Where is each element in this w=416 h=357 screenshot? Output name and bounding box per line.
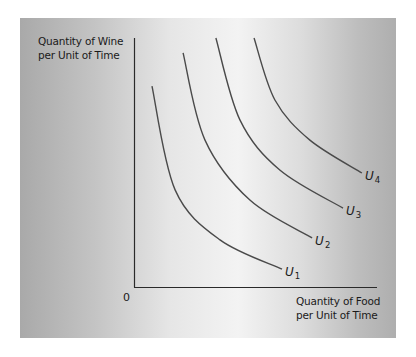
- curve-label-subscript: 2: [325, 240, 330, 250]
- indifference-curve-u3: [216, 38, 343, 208]
- y-axis-label-line-1: Quantity of Wine: [38, 35, 123, 47]
- indifference-curve-u1: [152, 86, 282, 269]
- indifference-curve-chart: Quantity of Wine per Unit of Time Quanti…: [0, 0, 416, 357]
- x-axis-label-line-1: Quantity of Food: [296, 295, 380, 307]
- indifference-curve-u2: [183, 53, 312, 238]
- curve-label-u3: U3: [346, 204, 361, 220]
- x-axis-label-line-2: per Unit of Time: [296, 309, 377, 321]
- y-axis-label-line-2: per Unit of Time: [38, 49, 119, 61]
- curve-label-subscript: 4: [375, 175, 380, 185]
- curve-label-u2: U2: [315, 234, 330, 250]
- curve-label-subscript: 3: [356, 210, 361, 220]
- origin-label: 0: [123, 291, 130, 304]
- curve-label-u1: U1: [285, 265, 300, 281]
- curve-label-u4: U4: [365, 169, 380, 185]
- indifference-curve-u4: [254, 38, 362, 173]
- curve-label-subscript: 1: [295, 271, 300, 281]
